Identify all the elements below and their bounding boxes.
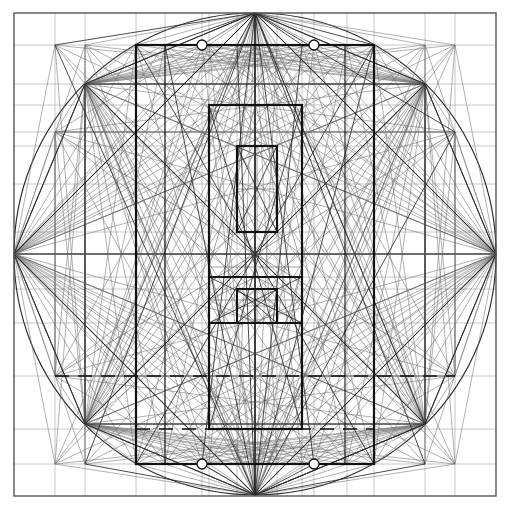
marker-circle xyxy=(309,459,319,469)
geometric-construction-figure xyxy=(0,0,509,511)
medium-construction-lines xyxy=(14,13,496,496)
marker-circle xyxy=(197,459,207,469)
marker-circle xyxy=(309,40,319,50)
marker-circle xyxy=(197,40,207,50)
diagram-canvas xyxy=(0,0,509,511)
